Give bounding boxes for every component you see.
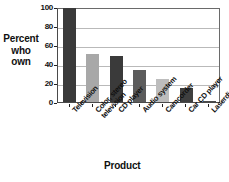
y-tick-mark [54,65,57,66]
x-tick-mark [69,104,70,107]
x-tick-label: Audio system [141,109,147,115]
y-tick-label: 20 [38,80,53,88]
x-tick-label: Camcorder [164,109,170,115]
bar-chart: Percent who own 020406080100 TelevisionC… [0,0,229,182]
x-tick-label: Television [71,109,77,115]
y-tick-mark [54,46,57,47]
y-axis-title-line-3: own [1,56,41,68]
x-tick-mark [185,104,186,107]
y-tick-label: 40 [38,61,53,69]
y-tick-label: 0 [38,99,53,107]
y-axis-ticks: 020406080100 [38,0,53,115]
y-axis-title-line-2: who [1,45,41,57]
y-tick-label: 80 [38,23,53,31]
y-tick-mark [54,103,57,104]
x-tick-mark [139,104,140,107]
y-tick-mark [54,8,57,9]
x-tick-label: Car CD player [187,109,193,115]
x-tick-mark [92,104,93,107]
x-axis-title: Product [104,160,140,171]
y-tick-mark [54,84,57,85]
y-tick-label: 100 [38,4,53,12]
x-tick-label: Laserdisc player [210,109,216,115]
y-tick-mark [54,27,57,28]
x-tick-mark [162,104,163,107]
y-axis-title: Percent who own [1,33,41,68]
x-tick-label: Color, stereo television [94,109,106,120]
x-tick-label: CD player [117,109,123,115]
bar [63,8,76,102]
y-axis-title-line-1: Percent [1,33,41,45]
y-tick-label: 60 [38,42,53,50]
x-tick-mark [208,104,209,107]
x-tick-mark [115,104,116,107]
